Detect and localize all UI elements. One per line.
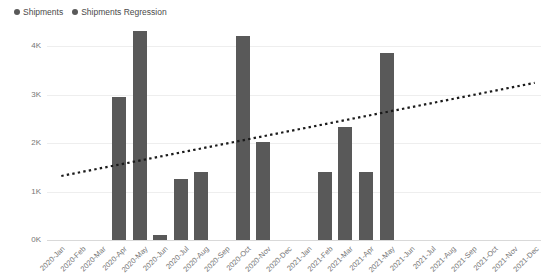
y-gridline — [47, 46, 541, 47]
bar[interactable] — [153, 235, 167, 240]
bar[interactable] — [318, 172, 332, 240]
y-axis-tick-label: 3K — [17, 91, 41, 99]
y-axis-tick-label: 2K — [17, 139, 41, 147]
bar[interactable] — [256, 142, 270, 240]
bar[interactable] — [380, 53, 394, 240]
plot-area: 0K1K2K3K4K2020-Jan2020-Feb2020-Mar2020-A… — [0, 0, 551, 275]
y-gridline — [47, 95, 541, 96]
shipments-bar-chart: Shipments Shipments Regression 0K1K2K3K4… — [0, 0, 551, 275]
bar[interactable] — [194, 172, 208, 240]
bar[interactable] — [174, 179, 188, 240]
bar[interactable] — [133, 31, 147, 240]
x-axis-line — [47, 240, 541, 241]
y-axis-tick-label: 0K — [17, 236, 41, 244]
y-axis-tick-label: 1K — [17, 188, 41, 196]
bar[interactable] — [359, 172, 373, 240]
bar[interactable] — [236, 36, 250, 240]
y-axis-tick-label: 4K — [17, 42, 41, 50]
bar[interactable] — [338, 127, 352, 240]
bar[interactable] — [112, 97, 126, 240]
